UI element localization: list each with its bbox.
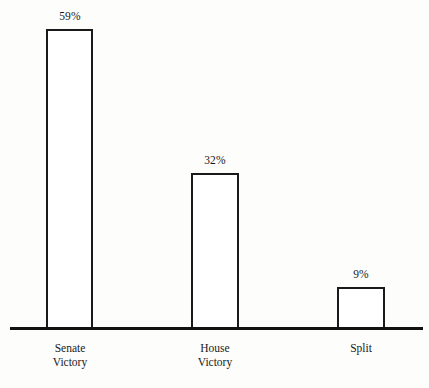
bar-senate-victory	[46, 29, 93, 329]
category-label-line-0-1: Victory	[25, 355, 115, 369]
category-label-split: Split	[316, 341, 406, 355]
plot-area: 59% 32% 9% Senate Victory House Victory …	[0, 0, 429, 388]
bar-house-victory	[191, 173, 239, 329]
bar-split	[337, 287, 385, 329]
bar-value-label-1: 32%	[181, 154, 249, 166]
x-axis-line	[10, 327, 423, 330]
category-label-senate-victory: Senate Victory	[25, 341, 115, 369]
category-label-house-victory: House Victory	[170, 341, 260, 369]
bar-value-label-2: 9%	[327, 268, 395, 280]
category-label-line-0-0: Senate	[25, 341, 115, 355]
bar-value-label-0: 59%	[36, 10, 104, 22]
category-label-line-2-0: Split	[316, 341, 406, 355]
category-label-line-1-1: Victory	[170, 355, 260, 369]
category-label-line-1-0: House	[170, 341, 260, 355]
bar-chart: 59% 32% 9% Senate Victory House Victory …	[0, 0, 429, 388]
